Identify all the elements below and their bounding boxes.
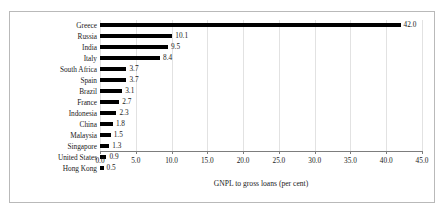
gridline: [422, 20, 423, 151]
x-tick-label: 35.0: [333, 156, 367, 166]
bar: [100, 89, 122, 93]
x-tick: [350, 151, 351, 154]
bar-row: 42.0: [100, 20, 422, 31]
category-label: Malaysia: [1, 130, 97, 141]
bar-value-label: 3.7: [129, 74, 138, 85]
bar: [100, 45, 168, 49]
category-label: France: [1, 97, 97, 108]
bar-value-label: 1.8: [116, 118, 125, 129]
x-tick-label: 0.0: [83, 156, 117, 166]
category-label: India: [1, 42, 97, 53]
x-tick-label: 45.0: [405, 156, 439, 166]
bar: [100, 111, 116, 115]
category-label: Russia: [1, 31, 97, 42]
bar-row: 3.7: [100, 75, 422, 86]
bar-row: 3.1: [100, 86, 422, 97]
bar-row: 1.5: [100, 130, 422, 141]
category-label: Italy: [1, 53, 97, 64]
x-axis-title: GNPL to gross loans (per cent): [100, 178, 422, 189]
x-tick: [279, 151, 280, 154]
bar-chart: 42.010.19.58.43.73.73.12.72.31.81.51.30.…: [0, 0, 445, 218]
bar-row: 9.5: [100, 42, 422, 53]
bar: [100, 67, 126, 71]
bar: [100, 34, 172, 38]
plot-area: 42.010.19.58.43.73.73.12.72.31.81.51.30.…: [100, 20, 422, 151]
x-tick: [172, 151, 173, 154]
bar: [100, 122, 113, 126]
x-tick-label: 15.0: [190, 156, 224, 166]
bar-value-label: 1.3: [112, 140, 121, 151]
category-label: Spain: [1, 75, 97, 86]
x-axis-line: [100, 151, 422, 152]
bar: [100, 144, 109, 148]
bar-value-label: 9.5: [171, 41, 180, 52]
bar-value-label: 8.4: [163, 52, 172, 63]
x-tick: [136, 151, 137, 154]
bar: [100, 100, 119, 104]
bar-row: 3.7: [100, 64, 422, 75]
bar-row: 10.1: [100, 31, 422, 42]
category-label: Singapore: [1, 141, 97, 152]
bar-row: 8.4: [100, 53, 422, 64]
x-tick: [100, 151, 101, 154]
bar-row: 1.8: [100, 119, 422, 130]
category-label: China: [1, 119, 97, 130]
category-label: Brazil: [1, 86, 97, 97]
bar-value-label: 10.1: [175, 30, 188, 41]
x-tick: [422, 151, 423, 154]
bar-row: 2.7: [100, 97, 422, 108]
category-label: Indonesia: [1, 108, 97, 119]
x-tick: [207, 151, 208, 154]
bar-value-label: 42.0: [404, 19, 417, 30]
bar: [100, 166, 104, 170]
bar: [100, 78, 126, 82]
x-tick: [315, 151, 316, 154]
bar-row: 2.3: [100, 108, 422, 119]
x-tick-label: 30.0: [298, 156, 332, 166]
bar-value-label: 2.3: [119, 107, 128, 118]
bar: [100, 23, 401, 27]
category-label: Greece: [1, 20, 97, 31]
x-tick-label: 5.0: [119, 156, 153, 166]
x-tick-label: 25.0: [262, 156, 296, 166]
x-tick-label: 40.0: [369, 156, 403, 166]
bar: [100, 133, 111, 137]
bar-value-label: 3.1: [125, 85, 134, 96]
bar-value-label: 3.7: [129, 63, 138, 74]
category-label: South Africa: [1, 64, 97, 75]
bar-value-label: 2.7: [122, 96, 131, 107]
bar-value-label: 1.5: [114, 129, 123, 140]
x-tick: [243, 151, 244, 154]
x-tick-label: 10.0: [155, 156, 189, 166]
bar: [100, 56, 160, 60]
x-tick: [386, 151, 387, 154]
x-tick-label: 20.0: [226, 156, 260, 166]
